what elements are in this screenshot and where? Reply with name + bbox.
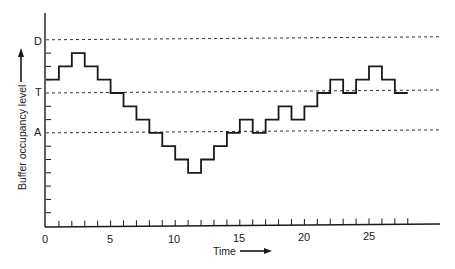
buffer-occupancy-step-line bbox=[46, 53, 408, 173]
y-axis-title: Buffer occupancy level bbox=[16, 85, 28, 190]
level-label-t: T bbox=[35, 86, 42, 98]
level-label-d: D bbox=[34, 35, 42, 47]
x-axis-line bbox=[45, 224, 440, 227]
reference-lines bbox=[46, 37, 440, 133]
x-axis-title: Time bbox=[213, 245, 236, 257]
reference-line-a bbox=[46, 130, 440, 133]
x-tick-label-25: 25 bbox=[363, 230, 375, 242]
x-tick-label-20: 20 bbox=[298, 231, 310, 243]
x-tick-label-15: 15 bbox=[233, 232, 245, 244]
x-tick-label-0: 0 bbox=[42, 233, 48, 245]
y-axis-arrow-icon bbox=[18, 48, 24, 82]
reference-line-t bbox=[46, 90, 440, 93]
x-axis-arrow-icon bbox=[240, 248, 272, 254]
level-label-a: A bbox=[34, 126, 42, 138]
x-tick-label-10: 10 bbox=[168, 233, 180, 245]
reference-line-d bbox=[46, 37, 440, 40]
x-tick-label-5: 5 bbox=[107, 233, 113, 245]
buffer-occupancy-chart: D T A 0 5 10 15 20 25 Time Buffer occupa… bbox=[0, 0, 455, 269]
